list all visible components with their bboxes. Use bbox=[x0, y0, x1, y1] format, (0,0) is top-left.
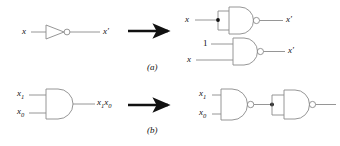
nand-b1-body bbox=[221, 89, 247, 120]
row-b-right-nand2 bbox=[270, 90, 336, 119]
row-b-left-and-gate bbox=[29, 89, 95, 119]
label-a-top-output: x′ bbox=[286, 15, 292, 24]
label-b-left-output: x1x0 bbox=[97, 98, 112, 109]
label-b-right-input-bottom: x0 bbox=[199, 108, 206, 119]
not-triangle-body bbox=[46, 25, 64, 39]
label-a-bottom-input-bottom: x bbox=[187, 55, 191, 64]
caption-part-a: (a) bbox=[147, 63, 158, 72]
row-b-right-nand1 bbox=[212, 89, 272, 120]
nand-b2-bubble-icon bbox=[309, 101, 315, 107]
nand-a1-bubble-icon bbox=[253, 17, 259, 23]
junction-dot-icon bbox=[216, 18, 220, 22]
and-b-body bbox=[46, 89, 73, 119]
row-a-right-top-nand bbox=[195, 7, 283, 34]
row-a-left-not-gate bbox=[31, 25, 100, 39]
label-b-left-input-bottom: x0 bbox=[17, 107, 24, 118]
nand-b2-body bbox=[284, 90, 310, 119]
label-b-right-input-top: x1 bbox=[199, 89, 206, 100]
nand-b2-tie-top bbox=[272, 95, 284, 105]
nand-a2-body bbox=[233, 38, 258, 65]
nand-a2-bubble-icon bbox=[257, 48, 263, 54]
nand-a1-tie-top bbox=[218, 11, 229, 20]
label-a-left-output: x′ bbox=[103, 27, 109, 36]
label-b-left-input-top: x1 bbox=[17, 89, 24, 100]
caption-part-b: (b) bbox=[147, 126, 158, 135]
nand-b2-tie-bottom bbox=[272, 105, 284, 116]
nand-b1-bubble-icon bbox=[247, 101, 253, 107]
label-a-left-input: x bbox=[22, 27, 26, 36]
nand-a1-tie-bottom bbox=[218, 20, 229, 30]
logic-gate-figure: x x′ x x′ 1 x x′ (a) x1 x0 x1x0 x1 x0 (b… bbox=[0, 0, 340, 146]
nand-a1-body bbox=[229, 7, 254, 34]
label-a-top-input: x bbox=[185, 15, 189, 24]
label-a-bottom-output: x′ bbox=[288, 46, 294, 55]
label-a-bottom-input-top: 1 bbox=[203, 39, 208, 48]
row-a-right-bottom-nand bbox=[196, 38, 285, 65]
